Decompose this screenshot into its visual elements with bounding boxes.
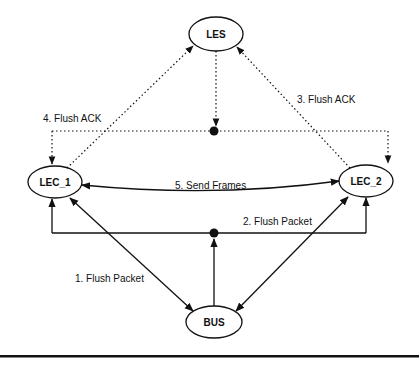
edge-step2-flush-packet: 2. Flush Packet [52,198,366,306]
edge-step4-label: 4. Flush ACK [43,113,102,124]
edge-step4-les-link [67,46,193,168]
flush-protocol-diagram: LES LEC_1 LEC_2 BUS 3. Flush ACK 4. Flus… [0,0,419,366]
edge-step4-flush-ack: 4. Flush ACK [43,51,388,164]
node-les: LES [189,17,243,51]
edge-step1-label: 1. Flush Packet [75,273,144,284]
edge-step5-label: 5. Send Frames [175,180,246,191]
node-bus: BUS [186,306,242,338]
junction-dot-dotted [210,127,219,136]
node-lec2-label: LEC_2 [350,176,382,187]
edge-step3-flush-ack: 3. Flush ACK [237,47,356,168]
node-les-label: LES [206,29,226,40]
node-lec2: LEC_2 [339,165,393,197]
junction-dot-solid [210,229,219,238]
edge-step1-flush-packet: 1. Flush Packet [70,198,193,311]
edge-lec2-bus [236,197,348,311]
bottom-rule [0,355,419,358]
edge-step3-label: 3. Flush ACK [297,94,356,105]
node-lec1-label: LEC_1 [39,177,71,188]
node-bus-label: BUS [203,317,224,328]
edge-step2-label: 2. Flush Packet [243,216,312,227]
edge-step5-send-frames: 5. Send Frames [82,180,339,191]
node-lec1: LEC_1 [28,166,82,198]
